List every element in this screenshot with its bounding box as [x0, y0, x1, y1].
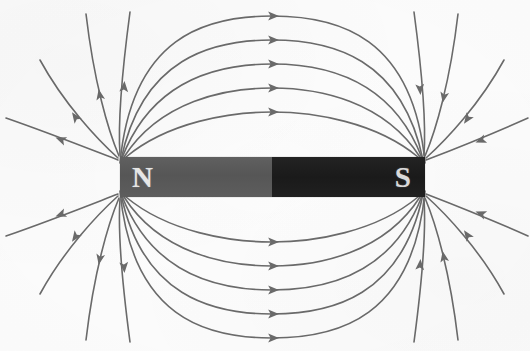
- magnet-south-pole: S: [272, 157, 425, 197]
- south-pole-label: S: [395, 163, 411, 192]
- field-line: [124, 88, 420, 157]
- field-line: [121, 194, 423, 314]
- north-pole-label: N: [132, 163, 153, 192]
- field-line: [86, 198, 119, 340]
- field-line: [124, 197, 420, 266]
- field-arrowhead: [119, 81, 129, 92]
- magnet-north-pole: N: [120, 157, 272, 197]
- field-arrowhead: [119, 262, 129, 273]
- field-line: [126, 112, 418, 157]
- field-line: [426, 60, 504, 158]
- field-arrowhead: [94, 253, 105, 265]
- field-line: [425, 198, 458, 340]
- magnetic-field-figure: .fl { fill: none; stroke: #6b6b6b; strok…: [0, 0, 530, 351]
- field-line: [40, 60, 118, 158]
- field-line: [426, 196, 504, 294]
- field-line: [425, 14, 458, 156]
- field-line: [426, 118, 528, 160]
- field-line: [40, 196, 118, 294]
- field-arrowhead: [94, 88, 105, 100]
- field-line: [121, 40, 423, 160]
- field-line: [426, 194, 528, 236]
- field-line: [126, 197, 418, 242]
- bar-magnet: N S: [120, 157, 425, 197]
- field-line: [86, 14, 119, 156]
